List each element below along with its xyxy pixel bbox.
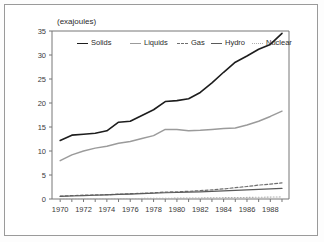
x-tick-label: 1976 xyxy=(117,205,143,214)
y-tick-label: 10 xyxy=(28,147,46,156)
legend-swatch-icon xyxy=(252,43,263,44)
legend-swatch-icon xyxy=(77,43,88,44)
series-line-liquids xyxy=(60,111,282,160)
legend-label: Nuclear xyxy=(266,38,292,47)
x-tick-label: 1972 xyxy=(71,205,97,214)
series-line-hydro xyxy=(60,188,282,196)
figure-frame: (exajoules) 05101520253035 1970197219741… xyxy=(4,4,318,236)
y-tick-label: 15 xyxy=(28,123,46,132)
series-lines xyxy=(60,33,282,199)
y-tick-label: 25 xyxy=(28,75,46,84)
y-tick-label: 20 xyxy=(28,99,46,108)
legend-swatch-icon xyxy=(130,43,141,44)
legend-label: Hydro xyxy=(225,38,245,47)
legend-label: Liquids xyxy=(144,38,168,47)
x-tick-label: 1970 xyxy=(47,205,73,214)
chart-figure: (exajoules) 05101520253035 1970197219741… xyxy=(0,0,324,242)
x-tick-label: 1974 xyxy=(94,205,120,214)
y-tick-label: 5 xyxy=(28,171,46,180)
x-tick-label: 1988 xyxy=(257,205,283,214)
legend-label: Solids xyxy=(91,38,111,47)
legend-swatch-icon xyxy=(177,43,188,44)
y-tick-label: 30 xyxy=(28,51,46,60)
legend-swatch-icon xyxy=(211,43,222,44)
x-tick-label: 1978 xyxy=(141,205,167,214)
x-tick-label: 1984 xyxy=(211,205,237,214)
x-tick-label: 1982 xyxy=(187,205,213,214)
y-tick-label: 35 xyxy=(28,27,46,36)
axis-lines xyxy=(52,31,289,199)
legend-label: Gas xyxy=(191,38,205,47)
x-tick-label: 1980 xyxy=(164,205,190,214)
x-tick-label: 1986 xyxy=(234,205,260,214)
y-tick-label: 0 xyxy=(28,195,46,204)
